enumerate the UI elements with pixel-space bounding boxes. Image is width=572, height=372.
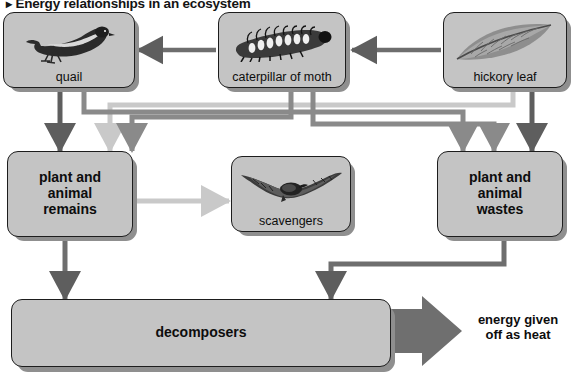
node-scavengers[interactable]: scavengers [231, 156, 351, 232]
node-label: caterpillar of moth [232, 71, 331, 87]
flow-quail-to-wastes [84, 90, 463, 151]
heat-output-label: energy given off as heat [466, 313, 570, 342]
node-label: plant and animal wastes [469, 170, 531, 217]
caterpillar-illustration [219, 13, 345, 71]
node-caterpillar[interactable]: caterpillar of moth [218, 12, 346, 88]
node-label: hickory leaf [473, 71, 536, 87]
node-label: decomposers [155, 325, 246, 341]
flow-caterpillar-to-remains [132, 90, 291, 151]
node-label: quail [56, 71, 82, 87]
node-hickory-leaf[interactable]: hickory leaf [443, 12, 567, 88]
node-plant-animal-wastes[interactable]: plant and animal wastes [437, 151, 563, 237]
hawk-scavenger-illustration [232, 157, 350, 215]
ecosystem-energy-diagram: ▸ Energy relationships in an ecosystem [0, 0, 572, 372]
node-plant-animal-remains[interactable]: plant and animal remains [7, 151, 133, 237]
node-label: scavengers [259, 215, 323, 231]
flow-caterpillar-to-wastes [313, 90, 494, 151]
hickory-leaf-illustration [444, 13, 566, 71]
node-label: plant and animal remains [39, 170, 101, 217]
node-quail[interactable]: quail [3, 12, 135, 88]
flow-wastes-to-decomposers [331, 238, 504, 299]
quail-bird-illustration [4, 13, 134, 71]
node-decomposers[interactable]: decomposers [11, 299, 391, 367]
